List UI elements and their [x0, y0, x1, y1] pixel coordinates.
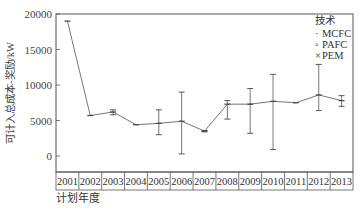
x-tick-label: 2013: [331, 176, 352, 187]
legend-entry: MCFC: [322, 28, 351, 39]
y-tick-label: 5000: [30, 115, 53, 127]
x-axis-title: 计划年度: [56, 189, 100, 205]
x-tick-label: 2011: [286, 176, 307, 187]
x-tick-label: 2009: [240, 176, 261, 187]
chart: 2001200220032004200520062007200820092010…: [0, 0, 362, 210]
legend-entry: PEM: [322, 50, 344, 61]
y-tick-label: 15000: [25, 44, 53, 56]
legend-marker-icon: ·: [315, 28, 319, 39]
y-tick-label: 0: [47, 150, 53, 162]
mean-line: [67, 21, 341, 131]
x-tick-label: 2001: [57, 176, 78, 187]
y-tick-label: 20000: [25, 8, 53, 20]
x-tick-label: 2002: [80, 176, 101, 187]
x-tick-label: 2012: [308, 176, 329, 187]
legend-marker-icon: ◦: [315, 39, 319, 50]
x-tick-label: 2004: [125, 176, 147, 187]
x-tick-label: 2003: [103, 176, 124, 187]
legend-entry: PAFC: [322, 39, 347, 50]
y-tick-label: 10000: [25, 79, 53, 91]
x-tick-label: 2008: [217, 176, 238, 187]
legend-marker-icon: ×: [315, 50, 321, 61]
plot-frame: [56, 14, 353, 172]
y-axis-title: 可计入总成本-奖励/kW: [4, 42, 16, 144]
x-tick-label: 2006: [171, 176, 192, 187]
x-tick-label: 2005: [148, 176, 169, 187]
legend-title: 技术: [315, 14, 336, 26]
x-tick-label: 2010: [263, 176, 284, 187]
x-tick-label: 2007: [194, 176, 215, 187]
